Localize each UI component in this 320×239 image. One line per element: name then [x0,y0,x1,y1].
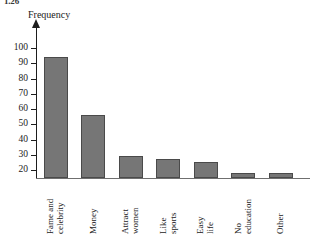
y-tick-mark [31,109,37,110]
y-tick-mark [31,124,37,125]
y-tick-label: 30 [0,150,28,160]
bar [81,115,105,178]
y-axis-arrow-icon [32,19,40,28]
y-tick-label: 50 [0,119,28,129]
bar [119,156,143,178]
bar [231,173,255,178]
x-axis-label: Easy life [196,217,215,235]
x-axis-label: Other [276,214,286,235]
x-axis-label: Fame and celebrity [46,199,65,234]
x-axis-label: Like sports [159,212,178,234]
y-tick-label: 60 [0,104,28,114]
y-tick-mark [31,94,37,95]
plot-area: 2030405060708090100 Fame and celebrityMo… [0,0,320,239]
y-tick-label: 70 [0,89,28,99]
bar [156,159,180,178]
y-tick-label: 80 [0,74,28,84]
y-tick-label: 100 [0,43,28,53]
y-tick-mark [31,155,37,156]
x-axis-label: No education [234,199,253,234]
y-tick-label: 40 [0,135,28,145]
y-tick-mark [31,140,37,141]
figure-root: 1.26 Frequency 2030405060708090100 Fame … [0,0,320,239]
y-tick-mark [31,170,37,171]
x-axis-baseline [36,178,310,179]
y-tick-mark [31,48,37,49]
bar [194,162,218,178]
x-axis-label: Attract women [121,208,140,235]
bar [269,173,293,178]
y-tick-mark [31,79,37,80]
y-tick-label: 20 [0,165,28,175]
y-tick-mark [31,63,37,64]
x-axis-label: Money [89,209,99,235]
bar [44,57,68,178]
y-tick-label: 90 [0,58,28,68]
